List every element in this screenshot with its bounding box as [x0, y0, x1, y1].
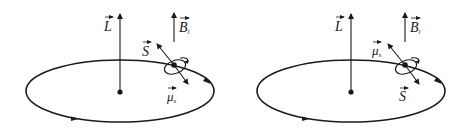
label-mu-s: μs	[166, 89, 177, 105]
panel-right: L Bl μs S	[257, 13, 445, 122]
label-L: L	[334, 19, 343, 34]
label-S: S	[142, 44, 149, 59]
label-L: L	[103, 19, 112, 34]
electron-dot	[402, 62, 408, 68]
spin-orbit-figure: L Bl S μs	[0, 0, 464, 131]
orbit-direction-arrow-icon	[71, 117, 79, 121]
label-mu-s: μs	[371, 43, 382, 59]
electron-dot	[171, 62, 177, 68]
label-S: S	[399, 89, 406, 104]
diagram-canvas: L Bl S μs	[0, 0, 464, 131]
spin-rotation-arrowhead-icon	[415, 60, 420, 64]
orbit-direction-arrow-icon	[302, 117, 310, 121]
label-B: Bl	[410, 20, 421, 36]
spin-rotation-arrowhead-icon	[184, 60, 189, 64]
panel-left: L Bl S μs	[26, 13, 214, 122]
label-B: Bl	[179, 20, 190, 36]
